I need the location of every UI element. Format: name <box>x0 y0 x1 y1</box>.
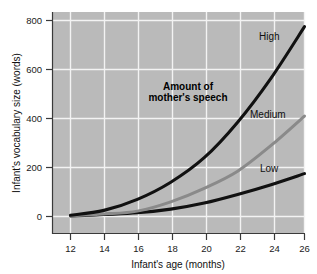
series-label-high: High <box>259 31 280 42</box>
chart-figure: 800 600 400 200 0 12 14 16 18 20 22 24 2 <box>0 0 317 274</box>
line-chart: 800 600 400 200 0 12 14 16 18 20 22 24 2 <box>0 0 317 274</box>
y-axis-title: Infant's vocabulary size (words) <box>11 53 22 193</box>
plot-area <box>52 12 305 234</box>
annotation-line-1: Amount of <box>163 81 214 92</box>
plot-texture <box>52 12 305 234</box>
x-tick-label: 18 <box>167 243 178 254</box>
x-tick-label: 26 <box>299 243 310 254</box>
series-label-medium: Medium <box>250 109 286 120</box>
y-tick-label: 400 <box>26 113 42 124</box>
x-tick-label: 22 <box>235 243 246 254</box>
x-tick-label: 12 <box>65 243 76 254</box>
annotation-line-2: mother's speech <box>148 92 227 103</box>
y-tick-label: 800 <box>26 15 42 26</box>
x-tick-label: 14 <box>99 243 110 254</box>
x-axis-title: Infant's age (months) <box>131 259 225 270</box>
x-tick-label: 24 <box>269 243 280 254</box>
x-tick-label: 20 <box>201 243 212 254</box>
x-tick-label: 16 <box>133 243 144 254</box>
series-label-low: Low <box>260 163 279 174</box>
y-tick-label: 200 <box>26 162 42 173</box>
y-tick-label: 600 <box>26 64 42 75</box>
y-tick-label: 0 <box>37 211 42 222</box>
